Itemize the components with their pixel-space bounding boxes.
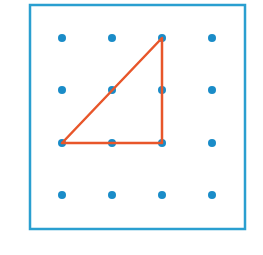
peg-dot [58, 86, 66, 94]
peg-dot [108, 34, 116, 42]
peg-dot [208, 34, 216, 42]
peg-dot [58, 34, 66, 42]
peg-dot [108, 191, 116, 199]
triangle-shape [62, 38, 162, 143]
peg-dot [158, 191, 166, 199]
geoboard [0, 0, 263, 255]
peg-dot [208, 139, 216, 147]
peg-dot [208, 86, 216, 94]
peg-dots [58, 34, 216, 199]
peg-dot [208, 191, 216, 199]
peg-dot [58, 191, 66, 199]
